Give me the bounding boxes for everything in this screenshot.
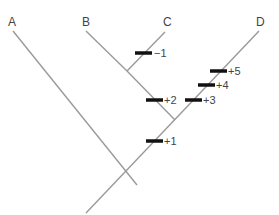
change-label-plus5: +5 <box>228 66 241 77</box>
cladogram-lines <box>0 0 279 215</box>
change-label-minus1: −1 <box>154 48 167 59</box>
taxon-label-d: D <box>256 16 265 28</box>
taxon-label-a: A <box>8 16 16 28</box>
branch-a <box>13 31 137 185</box>
change-label-plus1: +1 <box>164 136 177 147</box>
change-label-plus2: +2 <box>164 95 177 106</box>
change-label-plus4: +4 <box>216 80 229 91</box>
taxon-label-c: C <box>163 16 172 28</box>
change-label-plus3: +3 <box>203 95 216 106</box>
branch-d <box>86 31 259 213</box>
taxon-label-b: B <box>82 16 90 28</box>
branch-b <box>86 31 127 71</box>
